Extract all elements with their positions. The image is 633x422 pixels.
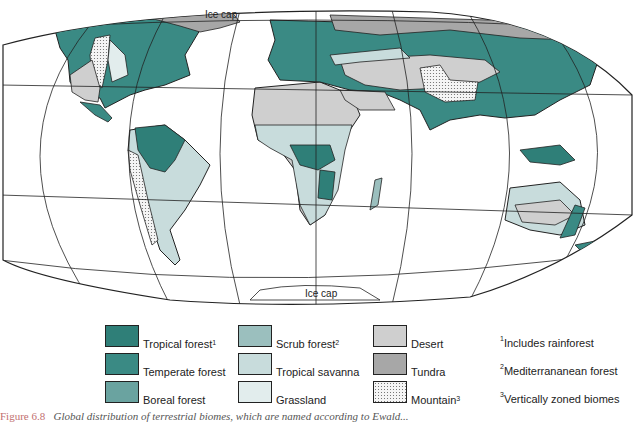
legend-item-grassland: Grassland — [238, 381, 326, 403]
figure-caption: Figure 6.8 Global distribution of terres… — [0, 410, 409, 422]
legend-item-temperate-forest: Temperate forest — [105, 353, 226, 375]
legend-label: Scrub forest — [276, 338, 335, 350]
legend-item-tundra: Tundra — [373, 353, 445, 375]
legend-label: Tropical savanna — [276, 367, 359, 378]
swatch-scrub-forest — [238, 325, 272, 347]
swatch-tropical-forest — [105, 325, 139, 347]
caption-text: Global distribution of terrestrial biome… — [53, 410, 408, 422]
legend: Tropical forest1 Temperate forest Boreal… — [0, 315, 633, 410]
legend-label: Grassland — [276, 395, 326, 406]
legend-item-boreal-forest: Boreal forest — [105, 381, 205, 403]
legend-label: Tundra — [411, 367, 445, 378]
swatch-desert — [373, 325, 407, 347]
swatch-grassland — [238, 381, 272, 403]
ice-cap-label-south: Ice cap — [305, 288, 338, 299]
swatch-tundra — [373, 353, 407, 375]
legend-item-mountain: Mountain3 — [373, 381, 460, 403]
legend-item-scrub-forest: Scrub forest2 — [238, 325, 339, 347]
footnote-2: 2Mediterrananean forest — [500, 365, 618, 377]
legend-label: Boreal forest — [143, 395, 205, 406]
swatch-temperate-forest — [105, 353, 139, 375]
legend-item-tropical-savanna: Tropical savanna — [238, 353, 359, 375]
legend-item-tropical-forest: Tropical forest1 — [105, 325, 216, 347]
ice-cap-label-north: Ice cap — [205, 9, 238, 20]
swatch-mountain — [373, 381, 407, 403]
legend-label: Desert — [411, 339, 443, 350]
swatch-boreal-forest — [105, 381, 139, 403]
legend-item-desert: Desert — [373, 325, 443, 347]
footnote-1: 1Includes rainforest — [500, 337, 594, 349]
legend-label: Mountain — [411, 394, 456, 406]
figure-number: Figure 6.8 — [0, 410, 45, 422]
world-biome-map: Ice cap Ice cap — [0, 0, 633, 310]
swatch-tropical-savanna — [238, 353, 272, 375]
footnote-3: 3Vertically zoned biomes — [500, 393, 619, 405]
legend-label: Temperate forest — [143, 367, 226, 378]
legend-label: Tropical forest — [143, 338, 212, 350]
